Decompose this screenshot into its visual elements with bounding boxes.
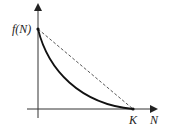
point-f-n xyxy=(36,27,39,30)
label-f-n: f(N) xyxy=(12,22,31,36)
secant-line xyxy=(38,29,133,109)
label-n-axis: N xyxy=(149,113,159,127)
point-k xyxy=(131,107,134,110)
diagram-canvas: f(N) K N xyxy=(0,0,169,131)
label-k: K xyxy=(128,113,138,127)
